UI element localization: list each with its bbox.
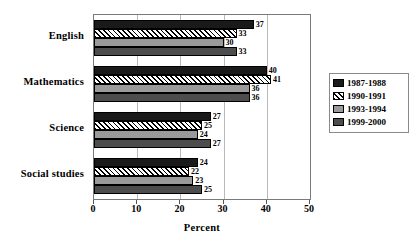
bar: [94, 84, 250, 93]
tick-label: 30: [218, 203, 228, 214]
bar: [94, 185, 202, 194]
bar-row: 24: [94, 130, 310, 139]
legend-item[interactable]: 1999-2000: [333, 116, 405, 128]
bar-row: 33: [94, 29, 310, 38]
legend-label: 1999-2000: [347, 117, 386, 127]
bar-row: 36: [94, 93, 310, 102]
bar-value-label: 36: [252, 85, 260, 93]
legend-label: 1990-1991: [347, 91, 386, 101]
legend-swatch-icon: [333, 105, 344, 113]
bar-value-label: 41: [273, 76, 281, 84]
bar: [94, 167, 189, 176]
bar-value-label: 36: [252, 94, 260, 102]
legend-item[interactable]: 1993-1994: [333, 103, 405, 115]
bar-group: 40413636: [94, 61, 310, 107]
plot-area: 37333033404136362725242724222325: [93, 14, 311, 200]
bar-row: 41: [94, 75, 310, 84]
bar-value-label: 33: [239, 48, 247, 56]
bar: [94, 176, 193, 185]
legend-item[interactable]: 1990-1991: [333, 90, 405, 102]
bar: [94, 66, 267, 75]
bar-value-label: 24: [200, 159, 208, 167]
bar-row: 36: [94, 84, 310, 93]
bar-row: 37: [94, 20, 310, 29]
bar: [94, 130, 198, 139]
category-label: Science: [49, 122, 84, 133]
bar: [94, 93, 250, 102]
category-label: Social studies: [21, 168, 84, 179]
bar-value-label: 23: [195, 177, 203, 185]
bar-value-label: 25: [204, 122, 212, 130]
bar: [94, 20, 254, 29]
bar-value-label: 30: [226, 39, 234, 47]
bar-row: 25: [94, 185, 310, 194]
tick-label: 40: [261, 203, 271, 214]
bar: [94, 158, 198, 167]
bar-value-label: 22: [191, 168, 199, 176]
chart-legend: 1987-19881990-19911993-19941999-2000: [329, 73, 409, 133]
x-axis-ticks: 01020304050: [93, 200, 311, 214]
bar-group: 27252427: [94, 107, 310, 153]
category-label: English: [49, 30, 84, 41]
bar-group: 24222325: [94, 153, 310, 199]
bar: [94, 121, 202, 130]
bar-value-label: 33: [239, 30, 247, 38]
bar-row: 27: [94, 139, 310, 148]
legend-label: 1987-1988: [347, 78, 386, 88]
tick-label: 0: [91, 203, 96, 214]
legend-label: 1993-1994: [347, 104, 386, 114]
bar-value-label: 27: [213, 140, 221, 148]
legend-swatch-icon: [333, 79, 344, 87]
bar-row: 23: [94, 176, 310, 185]
legend-item[interactable]: 1987-1988: [333, 77, 405, 89]
tick-label: 20: [174, 203, 184, 214]
category-label: Mathematics: [23, 76, 84, 87]
bar-value-label: 27: [213, 113, 221, 121]
x-axis-title: Percent: [93, 222, 311, 233]
bar-value-label: 40: [269, 67, 277, 75]
legend-swatch-icon: [333, 92, 344, 100]
bar: [94, 75, 271, 84]
category-axis-labels: EnglishMathematicsScienceSocial studies: [0, 14, 88, 200]
bar: [94, 29, 237, 38]
bar: [94, 38, 224, 47]
bar-row: 24: [94, 158, 310, 167]
bar-group: 37333033: [94, 15, 310, 61]
bar: [94, 112, 211, 121]
bar-value-label: 25: [204, 186, 212, 194]
bar-chart: EnglishMathematicsScienceSocial studies …: [0, 0, 413, 247]
bar: [94, 47, 237, 56]
tick-label: 50: [304, 203, 314, 214]
legend-swatch-icon: [333, 118, 344, 126]
bar-value-label: 24: [200, 131, 208, 139]
bar-row: 33: [94, 47, 310, 56]
bar: [94, 139, 211, 148]
bar-value-label: 37: [256, 21, 264, 29]
bar-row: 30: [94, 38, 310, 47]
bar-row: 27: [94, 112, 310, 121]
tick-label: 10: [131, 203, 141, 214]
